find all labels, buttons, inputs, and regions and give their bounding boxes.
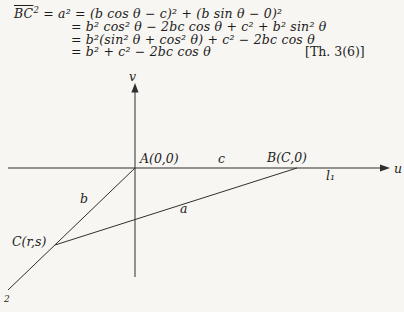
origin-point-label: A(0,0) [139,151,179,166]
b-point-label: B(C,0) [266,150,307,165]
coordinate-diagram: v u A(0,0) c B(C,0) l₁ b a C(r,s) 2 [0,0,404,312]
c-point-label: C(r,s) [12,234,46,249]
line-l1-label: l₁ [326,168,335,183]
u-axis-arrow [380,165,390,172]
side-a-label: a [180,201,187,216]
v-axis-label: v [129,69,136,84]
side-a-line [55,168,297,245]
side-b-label: b [80,191,88,206]
side-b-line [8,168,135,290]
u-axis-label: u [394,161,402,176]
side-c-label: c [218,151,225,166]
v-axis-arrow [131,83,138,93]
line-l2-partial-label: 2 [3,294,10,304]
textbook-page: BC2 = a² = (b cos θ − c)² + (b sin θ − 0… [0,0,404,312]
